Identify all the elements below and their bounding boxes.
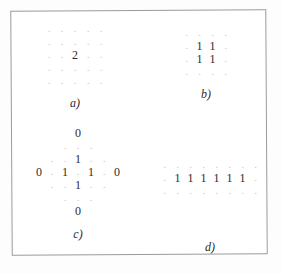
- grid-cell-dot: .: [72, 165, 85, 178]
- grid-cell-dot: .: [46, 152, 59, 165]
- grid-cell-dot: .: [180, 65, 193, 78]
- grid-cell-dot: .: [56, 22, 69, 35]
- grid-cell-dot: .: [59, 139, 72, 152]
- grid-cell-empty: [85, 204, 98, 217]
- grid-cell-empty: [33, 191, 46, 204]
- panel-d: .........111111......... d): [150, 158, 270, 255]
- grid-cell-dot: .: [206, 65, 219, 78]
- grid-cell-dot: .: [85, 191, 98, 204]
- grid-cell-dot: .: [95, 35, 108, 48]
- grid-cell-dot: .: [223, 184, 236, 197]
- grid-cell-dot: .: [171, 158, 184, 171]
- grid-cell-dot: .: [82, 22, 95, 35]
- grid-cell-value: 1: [193, 52, 206, 65]
- grid-cell-dot: .: [95, 74, 108, 87]
- grid-cell-empty: [85, 126, 98, 139]
- grid-cell-value: 1: [236, 171, 249, 184]
- grid-cell-value: 0: [72, 204, 85, 217]
- grid-cell-value: 1: [193, 39, 206, 52]
- grid-cell-value: 0: [72, 126, 85, 139]
- grid-cell-value: 1: [184, 171, 197, 184]
- grid-cell-dot: .: [158, 158, 171, 171]
- grid-cell-dot: .: [95, 22, 108, 35]
- grid-cell-dot: .: [56, 48, 69, 61]
- grid-cell-dot: .: [82, 35, 95, 48]
- grid-cell-dot: .: [82, 48, 95, 61]
- grid-cell-empty: [33, 139, 46, 152]
- grid-cell-empty: [111, 126, 124, 139]
- panel-b: .....11..11..... b): [158, 26, 254, 102]
- grid-cell-value: 0: [33, 165, 46, 178]
- grid-cell-empty: [59, 126, 72, 139]
- grid-cell-dot: .: [219, 52, 232, 65]
- grid-cell-dot: .: [223, 158, 236, 171]
- grid-cell-dot: .: [210, 184, 223, 197]
- grid-cell-dot: .: [85, 152, 98, 165]
- grid-cell-dot: .: [72, 191, 85, 204]
- grid-cell-dot: .: [43, 74, 56, 87]
- grid-cell-dot: .: [69, 61, 82, 74]
- grid-cell-dot: .: [43, 35, 56, 48]
- grid-cell-dot: .: [59, 191, 72, 204]
- grid-cell-value: 1: [206, 52, 219, 65]
- figure-root: ............2............ a) .....11..11…: [0, 0, 282, 274]
- grid-cell-dot: .: [95, 48, 108, 61]
- grid-cell-value: 1: [206, 39, 219, 52]
- grid-cell-dot: .: [180, 52, 193, 65]
- grid-cell-empty: [111, 152, 124, 165]
- grid-cell-dot: .: [82, 74, 95, 87]
- grid-cell-empty: [59, 204, 72, 217]
- grid-cell-dot: .: [158, 184, 171, 197]
- grid-cell-empty: [46, 126, 59, 139]
- grid-cell-value: 2: [69, 48, 82, 61]
- grid-cell-dot: .: [56, 74, 69, 87]
- grid-cell-value: 1: [223, 171, 236, 184]
- grid-cell-empty: [111, 191, 124, 204]
- grid-cell-dot: .: [197, 158, 210, 171]
- panel-d-label: d): [205, 240, 215, 255]
- grid-cell-empty: [98, 204, 111, 217]
- panel-c: 0.....1..0.1.1.0..1.....0 c): [18, 126, 138, 242]
- grid-cell-empty: [33, 126, 46, 139]
- grid-cell-dot: .: [171, 184, 184, 197]
- panel-a-label: a): [70, 96, 80, 111]
- panel-c-label: c): [73, 227, 82, 242]
- grid-cell-empty: [98, 126, 111, 139]
- grid-cell-value: 1: [85, 165, 98, 178]
- panel-b-grid: .....11..11.....: [180, 26, 232, 78]
- grid-cell-dot: .: [219, 39, 232, 52]
- grid-cell-dot: .: [46, 165, 59, 178]
- grid-cell-dot: .: [249, 184, 262, 197]
- grid-cell-value: 1: [197, 171, 210, 184]
- grid-cell-dot: .: [56, 61, 69, 74]
- grid-cell-dot: .: [85, 178, 98, 191]
- grid-cell-dot: .: [197, 184, 210, 197]
- grid-cell-value: 1: [72, 178, 85, 191]
- grid-cell-dot: .: [95, 61, 108, 74]
- grid-cell-value: 1: [210, 171, 223, 184]
- grid-cell-empty: [33, 178, 46, 191]
- grid-cell-dot: .: [98, 178, 111, 191]
- grid-cell-value: 1: [59, 165, 72, 178]
- grid-cell-dot: .: [184, 184, 197, 197]
- grid-cell-dot: .: [82, 61, 95, 74]
- grid-cell-dot: .: [219, 65, 232, 78]
- grid-cell-dot: .: [46, 178, 59, 191]
- grid-cell-dot: .: [43, 61, 56, 74]
- grid-cell-empty: [46, 139, 59, 152]
- grid-cell-empty: [98, 139, 111, 152]
- grid-cell-dot: .: [43, 22, 56, 35]
- grid-cell-value: 0: [111, 165, 124, 178]
- grid-cell-dot: .: [249, 158, 262, 171]
- grid-cell-empty: [98, 191, 111, 204]
- grid-cell-dot: .: [219, 26, 232, 39]
- grid-cell-empty: [46, 191, 59, 204]
- grid-cell-empty: [33, 152, 46, 165]
- grid-cell-dot: .: [59, 178, 72, 191]
- grid-cell-dot: .: [158, 171, 171, 184]
- grid-cell-dot: .: [98, 152, 111, 165]
- grid-cell-dot: .: [236, 158, 249, 171]
- grid-cell-empty: [111, 139, 124, 152]
- grid-cell-dot: .: [206, 26, 219, 39]
- grid-cell-empty: [111, 178, 124, 191]
